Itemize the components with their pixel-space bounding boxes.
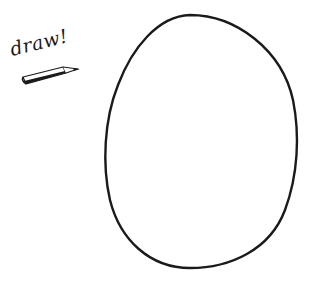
drawing-canvas[interactable]: draw! bbox=[0, 0, 312, 286]
oval-shape[interactable] bbox=[105, 15, 297, 268]
drawing-layer bbox=[0, 0, 312, 286]
pencil-icon bbox=[22, 67, 80, 84]
